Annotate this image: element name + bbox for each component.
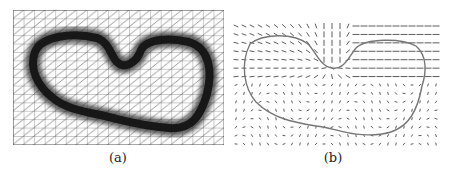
panel-a-mesh (13, 10, 224, 145)
mesh-figure (13, 10, 224, 145)
vector-field-figure (232, 22, 440, 148)
caption-a: (a) (88, 150, 148, 165)
caption-b: (b) (303, 150, 363, 165)
panel-b-vector-field (232, 22, 440, 148)
